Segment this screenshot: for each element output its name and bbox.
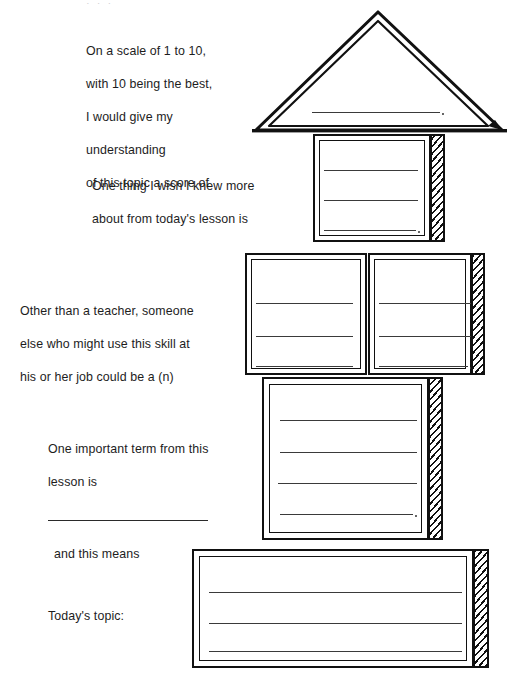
tier3-right-write-line-3[interactable] — [379, 366, 468, 367]
prompt-roof-line-1: On a scale of 1 to 10, — [86, 43, 261, 59]
prompt-tier4-fill-rule[interactable] — [48, 520, 208, 521]
tier3-left-write-line-1[interactable] — [256, 303, 353, 304]
cropped-text-sliver: · · · — [86, 0, 246, 4]
tier2-hatched-side-panel — [430, 134, 445, 242]
prompt-roof-line-3: I would give my — [86, 109, 261, 125]
tier3-box-right — [368, 253, 472, 375]
prompt-tier2-line-1: One thing I wish I knew more — [92, 178, 302, 194]
prompt-tier3-line-2: else who might use this skill at — [20, 336, 250, 352]
tier3-box-left — [245, 253, 367, 375]
tier2-write-line-2[interactable] — [324, 200, 418, 201]
prompt-tier4-line-2: lesson is — [48, 474, 273, 490]
tier2-write-line-1[interactable] — [324, 170, 418, 171]
prompt-tier2-line-2: about from today's lesson is — [92, 211, 302, 227]
tier5-base-box-inner — [199, 556, 467, 661]
roof-triangle — [252, 8, 507, 136]
tier3-left-write-line-3[interactable] — [256, 366, 353, 367]
tier4-box — [262, 377, 429, 540]
tier5-hatched-side-panel — [473, 549, 489, 668]
tier5-write-line-3[interactable] — [209, 651, 462, 652]
tier3-right-write-line-1[interactable] — [379, 303, 471, 304]
tier2-box-inner — [319, 140, 425, 236]
tier4-write-line-1[interactable] — [280, 420, 417, 421]
tier5-write-line-2[interactable] — [209, 623, 462, 624]
tier5-write-line-1[interactable] — [209, 592, 462, 593]
tier2-write-line-3[interactable] — [324, 230, 416, 231]
prompt-roof-line-2: with 10 being the best, — [86, 76, 261, 92]
tier3-box-left-inner — [251, 259, 361, 369]
tier4-write-line-4[interactable] — [280, 514, 413, 515]
roof-write-line-1[interactable] — [312, 112, 440, 113]
tier3-left-write-line-2[interactable] — [256, 336, 353, 337]
tier4-write-line-3[interactable] — [278, 483, 417, 484]
prompt-tier3-career: Other than a teacher, someone else who m… — [20, 287, 250, 402]
tier2-box — [313, 134, 431, 242]
tier4-hatched-side-panel — [428, 377, 443, 540]
prompt-tier4-line-1: One important term from this — [48, 441, 273, 457]
prompt-tier3-line-3: his or her job could be a (n) — [20, 369, 250, 385]
tier4-write-line-2[interactable] — [280, 452, 417, 453]
worksheet-page: · · · On a scale of 1 to 10, with 10 bei… — [0, 0, 507, 680]
tier3-hatched-side-panel — [471, 253, 485, 375]
tier4-box-inner — [269, 384, 422, 533]
prompt-tier2-wish: One thing I wish I knew more about from … — [92, 162, 302, 244]
tier3-right-write-line-2[interactable] — [379, 336, 471, 337]
prompt-tier3-line-1: Other than a teacher, someone — [20, 303, 250, 319]
tier3-box-right-inner — [374, 259, 466, 369]
prompt-roof-line-4: understanding — [86, 142, 261, 158]
